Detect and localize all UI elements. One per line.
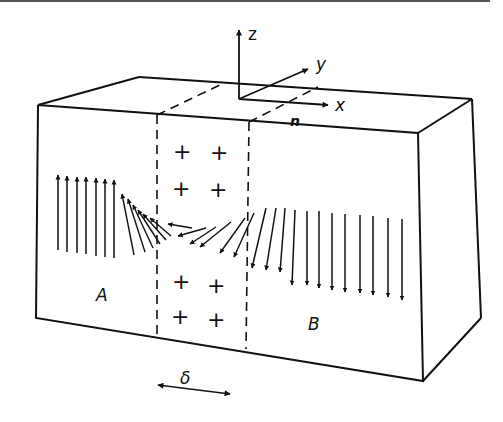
wall-width-arrow	[158, 385, 230, 394]
axis-z-label: z	[248, 26, 257, 43]
charge-plus: +	[171, 306, 189, 328]
domain-b-label: B	[308, 316, 320, 333]
charge-plus: +	[209, 179, 227, 201]
axis-x-label: x	[335, 97, 345, 114]
charge-plus: +	[210, 142, 228, 164]
wall-vectors	[122, 194, 254, 257]
domain-wall-diagram	[0, 0, 503, 422]
axis-y-label: y	[316, 56, 326, 73]
normal-n-label: n	[290, 114, 300, 128]
charge-plus: +	[172, 178, 190, 200]
charge-plus: +	[173, 141, 191, 163]
domain-a-label: A	[96, 287, 108, 304]
charge-plus: +	[207, 309, 225, 331]
box-outline	[36, 77, 481, 381]
charge-plus: +	[172, 271, 190, 293]
charge-plus: +	[207, 275, 225, 297]
wall-width-label: δ	[180, 370, 190, 387]
domain-b-vectors	[252, 208, 402, 300]
domain-a-vectors	[58, 175, 114, 258]
